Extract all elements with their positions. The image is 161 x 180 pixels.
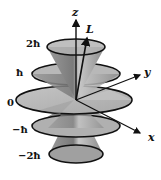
level-label-hbar: ħ: [16, 67, 24, 78]
level-label-2hbar: 2ħ: [26, 38, 41, 49]
x-axis-label: x: [147, 131, 155, 144]
level-label-neg-2hbar: −2ħ: [18, 150, 41, 161]
z-axis-label: z: [71, 6, 79, 19]
angular-momentum-diagram: z L y x 2ħ ħ 0 −ħ −2ħ: [0, 0, 161, 180]
vector-label: L: [85, 23, 94, 36]
y-axis-label: y: [143, 66, 152, 79]
level-label-neg-hbar: −ħ: [12, 124, 28, 135]
level-label-0: 0: [7, 97, 14, 108]
